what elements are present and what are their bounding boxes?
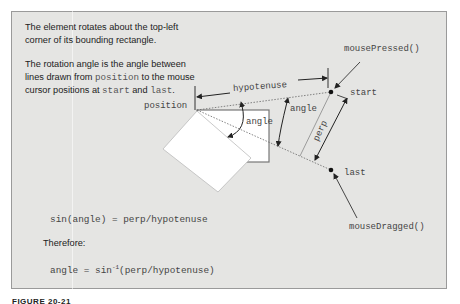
label-angle-outer: angle	[290, 104, 317, 114]
figure-caption: FIGURE 20-21	[12, 297, 71, 304]
label-angle-inner: angle	[246, 117, 273, 127]
label-last: last	[344, 168, 366, 178]
angle-formula: angle = sin-1(perp/hypotenuse)	[50, 261, 215, 277]
label-position: position	[144, 101, 187, 111]
therefore-label: Therefore:	[43, 237, 85, 250]
sin-equation: sin(angle) = perp/hypotenuse	[50, 213, 208, 226]
label-mouse-pressed: mousePressed()	[344, 44, 420, 54]
start-point	[329, 90, 334, 95]
label-mouse-dragged: mouseDragged()	[349, 222, 425, 232]
label-start: start	[350, 88, 377, 98]
last-point	[329, 168, 334, 173]
